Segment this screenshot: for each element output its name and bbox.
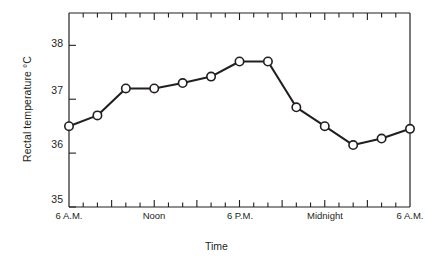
data-point (235, 57, 243, 65)
data-point (65, 122, 73, 130)
data-point (150, 84, 158, 92)
x-axis-ticks (83, 13, 396, 207)
temperature-line (69, 62, 410, 146)
data-point (122, 84, 130, 92)
data-point (292, 103, 300, 111)
data-point (377, 134, 385, 142)
data-point-markers (65, 57, 414, 149)
data-point (321, 122, 329, 130)
data-point (264, 57, 272, 65)
plot-frame (69, 13, 410, 207)
data-point (93, 111, 101, 119)
data-point (406, 125, 414, 133)
chart-figure: Rectal temperature °C Time 38 37 36 35 6… (0, 0, 433, 264)
data-point (207, 72, 215, 80)
data-point (349, 141, 357, 149)
data-point (178, 79, 186, 87)
plot-svg (0, 0, 433, 264)
